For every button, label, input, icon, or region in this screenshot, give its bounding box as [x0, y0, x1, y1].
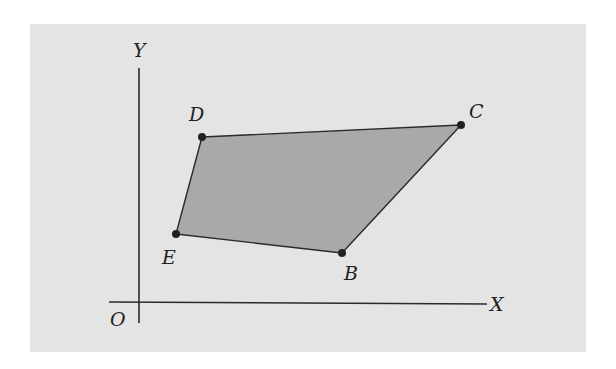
point-d	[198, 133, 206, 141]
point-e	[172, 230, 180, 238]
quadrilateral-edcb	[176, 125, 461, 253]
y-axis-label: Y	[133, 39, 148, 61]
point-c	[457, 121, 465, 129]
label-b: B	[343, 262, 358, 284]
point-b	[338, 249, 346, 257]
coordinate-diagram: Y X O D C E B	[0, 0, 616, 369]
label-c: C	[469, 100, 484, 122]
label-d: D	[188, 103, 204, 125]
label-e: E	[161, 246, 176, 268]
origin-label: O	[110, 308, 126, 330]
x-axis-label: X	[488, 293, 505, 315]
x-axis	[109, 302, 487, 304]
